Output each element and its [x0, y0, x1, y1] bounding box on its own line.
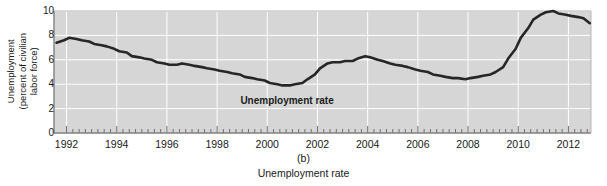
y-tick-label: 8 — [36, 30, 54, 40]
panel-letter: (b) — [0, 152, 607, 164]
series-annotation-label: Unemployment rate — [240, 95, 333, 106]
x-tick-label: 2010 — [496, 138, 540, 150]
y-tick-label: 2 — [36, 104, 54, 114]
y-tick-label: 10 — [36, 6, 54, 16]
x-tick-label: 1994 — [95, 138, 139, 150]
y-axis-title-line-1: Unemployment — [5, 33, 17, 110]
x-tick-label: 2012 — [546, 138, 590, 150]
x-tick-label: 1998 — [195, 138, 239, 150]
x-tick-label: 2008 — [446, 138, 490, 150]
y-tick-label: 6 — [36, 55, 54, 65]
x-tick-label: 2004 — [346, 138, 390, 150]
figure-caption: Unemployment rate — [0, 167, 607, 179]
x-tick-label: 2000 — [245, 138, 289, 150]
y-axis-title-line-2: (percent of civilian — [16, 33, 28, 110]
x-tick-label: 2002 — [295, 138, 339, 150]
x-tick-label: 1992 — [45, 138, 89, 150]
unemployment-rate-figure: Unemployment (percent of civilian labor … — [0, 0, 607, 186]
y-tick-label: 4 — [36, 79, 54, 89]
x-tick-label: 1996 — [145, 138, 189, 150]
plot-background — [54, 11, 591, 133]
y-tick-label: 0 — [36, 128, 54, 138]
x-tick-label: 2006 — [396, 138, 440, 150]
